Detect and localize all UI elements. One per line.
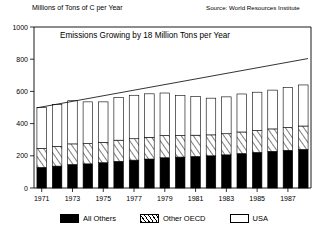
bar-segment-all-others (68, 164, 78, 188)
x-tick-label: 1987 (280, 195, 296, 202)
x-tick-label: 1973 (65, 195, 81, 202)
bar-segment-usa (191, 97, 201, 136)
bar-segment-usa (268, 90, 278, 129)
bar-segment-other-oecd (98, 142, 108, 162)
bar-segment-all-others (222, 155, 232, 188)
bar-segment-usa (98, 102, 108, 143)
bar-segment-all-others (52, 166, 62, 188)
legend-label-other-oecd: Other OECD (163, 214, 206, 223)
bar-segment-usa (37, 108, 47, 149)
bar-segment-other-oecd (206, 135, 216, 156)
bar-segment-other-oecd (252, 131, 262, 153)
bar-segment-other-oecd (83, 144, 93, 164)
bar-segment-all-others (129, 160, 139, 188)
bar-segment-usa (299, 85, 309, 126)
bar-segment-usa (222, 97, 232, 134)
bar-segment-usa (129, 95, 139, 138)
x-tick-label: 1971 (34, 195, 50, 202)
bar-segment-all-others (98, 163, 108, 188)
diagonal-hatch-swatch (140, 214, 159, 223)
bar-segment-all-others (191, 156, 201, 188)
x-axis-ticks: 197119731975197719791981198319851987 (34, 188, 296, 202)
bar-segment-all-others (145, 159, 155, 188)
bar-segment-all-others (37, 167, 47, 188)
trend-line (37, 59, 308, 108)
x-tick-label: 1985 (249, 195, 265, 202)
y-tick-label: 600 (16, 88, 28, 95)
solid-black-swatch (60, 214, 79, 223)
x-tick-label: 1979 (157, 195, 173, 202)
bar-segment-other-oecd (114, 140, 124, 161)
bar-segment-other-oecd (191, 135, 201, 156)
x-tick-label: 1977 (126, 195, 142, 202)
y-axis-ticks: 02004006008001000 (12, 24, 34, 192)
bar-segment-other-oecd (52, 146, 62, 166)
x-tick-label: 1975 (95, 195, 111, 202)
bar-segment-usa (252, 92, 262, 130)
legend-item-all-others: All Others (60, 214, 116, 223)
plot-area: 02004006008001000 1971197319751977197919… (0, 0, 328, 208)
bar-segment-other-oecd (222, 134, 232, 155)
y-tick-label: 200 (16, 152, 28, 159)
bar-segment-other-oecd (175, 136, 185, 158)
bar-segment-other-oecd (37, 148, 47, 167)
bar-segment-usa (114, 98, 124, 141)
legend-label-usa: USA (253, 214, 268, 223)
trend-line-path (37, 59, 308, 108)
bar-segment-all-others (268, 151, 278, 188)
bar-segment-all-others (206, 156, 216, 188)
bar-segment-usa (175, 96, 185, 136)
x-tick-label: 1983 (219, 195, 235, 202)
legend-label-all-others: All Others (83, 214, 116, 223)
y-tick-label: 1000 (12, 24, 28, 31)
bar-segment-all-others (252, 152, 262, 188)
bar-segment-all-others (299, 149, 309, 188)
white-outline-swatch (230, 214, 249, 223)
y-tick-label: 800 (16, 56, 28, 63)
bar-segment-other-oecd (299, 126, 309, 149)
bar-segment-usa (160, 93, 170, 136)
bar-segment-other-oecd (160, 136, 170, 158)
bar-segment-other-oecd (129, 139, 139, 160)
bar-segment-usa (52, 104, 62, 146)
bar-segment-all-others (283, 150, 293, 188)
chart-legend: All Others Other OECD USA (0, 208, 328, 228)
bar-segment-other-oecd (237, 132, 247, 154)
bar-segment-all-others (160, 158, 170, 188)
bar-segment-other-oecd (268, 129, 278, 151)
bar-segment-usa (68, 101, 78, 144)
bar-segment-other-oecd (68, 144, 78, 165)
y-tick-label: 0 (24, 185, 28, 192)
bar-segment-usa (237, 94, 247, 132)
bar-segment-all-others (237, 154, 247, 188)
x-tick-label: 1981 (188, 195, 204, 202)
bar-segment-all-others (83, 164, 93, 188)
bar-segment-usa (83, 102, 93, 144)
bar-segment-all-others (175, 157, 185, 188)
bar-segment-usa (206, 98, 216, 135)
legend-item-usa: USA (230, 214, 268, 223)
bar-segment-usa (283, 88, 293, 128)
bar-segment-other-oecd (145, 137, 155, 159)
bar-segment-usa (145, 94, 155, 137)
y-tick-label: 400 (16, 120, 28, 127)
legend-item-other-oecd: Other OECD (140, 214, 206, 223)
emissions-stacked-bar-chart: Millions of Tons of C per Year Source: W… (0, 0, 328, 231)
bar-segment-other-oecd (283, 127, 293, 150)
bar-segment-all-others (114, 161, 124, 188)
